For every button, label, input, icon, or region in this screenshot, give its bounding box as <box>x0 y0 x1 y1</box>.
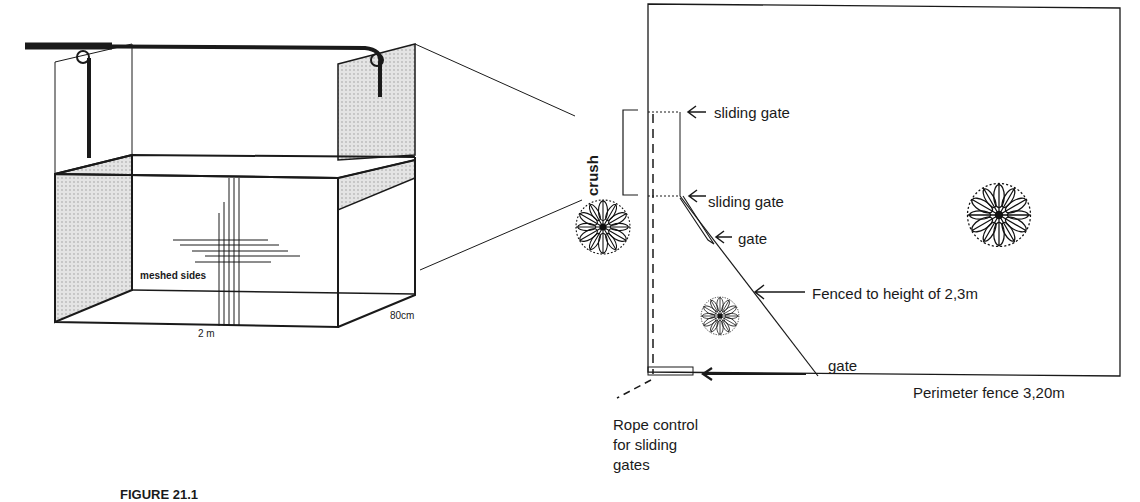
sliding-gate-top-label: sliding gate <box>714 104 790 121</box>
rope-label-line-1: Rope control <box>613 415 698 435</box>
right-upright-panel <box>338 44 415 160</box>
plan-view <box>617 4 1120 398</box>
right-mesh-panel <box>338 160 415 210</box>
zoom-line-bottom <box>420 200 582 270</box>
crush-3d-illustration <box>25 44 582 327</box>
tree-icon <box>968 184 1031 247</box>
zoom-line-top <box>415 44 575 116</box>
rope-label-line-3: gates <box>613 455 698 475</box>
bottom-gate <box>648 367 693 375</box>
tree-icon <box>576 200 630 254</box>
mesh-lines <box>173 178 300 326</box>
diagonal-gate-label: gate <box>738 230 767 247</box>
meshed-sides-label: meshed sides <box>140 270 206 281</box>
width-label: 80cm <box>390 310 414 321</box>
perimeter-fence-label: Perimeter fence 3,20m <box>913 384 1065 401</box>
length-label: 2 m <box>198 328 215 339</box>
left-mesh-panel <box>55 155 132 322</box>
fence-height-label: Fenced to height of 2,3m <box>812 285 978 302</box>
rope-control-label: Rope control for sliding gates <box>613 415 698 475</box>
figure-caption: FIGURE 21.1 <box>120 487 198 502</box>
crush-bracket <box>623 110 638 195</box>
sliding-gate-bottom-label: sliding gate <box>708 193 784 210</box>
crush-label: crush <box>584 155 601 196</box>
bottom-gate-label: gate <box>828 357 857 374</box>
rope-label-line-2: for sliding <box>613 435 698 455</box>
tree-icon <box>701 297 739 335</box>
left-upright-panel <box>55 44 132 174</box>
